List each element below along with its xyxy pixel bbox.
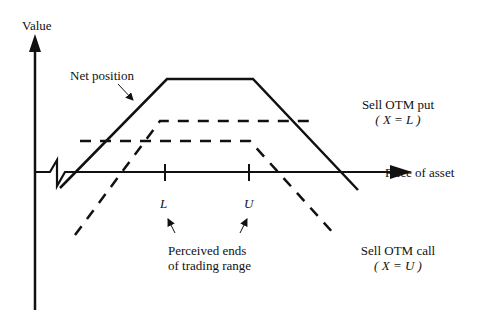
trading-range-line1: Perceived ends <box>168 243 251 258</box>
sell-call-label: Sell OTM call ( X = U ) <box>348 243 448 273</box>
tick-L-label: L <box>160 196 167 211</box>
trading-range-label: Perceived ends of trading range <box>168 243 251 273</box>
sell-put-title: Sell OTM put <box>353 97 443 112</box>
net-position-line <box>60 79 358 190</box>
payoff-diagram: Value Price of asset Net position Sell O… <box>0 0 479 327</box>
x-axis-label: Price of asset <box>385 165 454 180</box>
y-axis-arrow-icon <box>29 34 41 52</box>
sell-call-strike: ( X = U ) <box>348 258 448 273</box>
L-pointer-arrow-icon <box>168 219 175 233</box>
sell-put-label: Sell OTM put ( X = L ) <box>353 97 443 127</box>
x-axis <box>35 160 412 186</box>
sell-otm-call-line <box>80 141 335 235</box>
y-axis-label: Value <box>22 18 52 33</box>
sell-call-title: Sell OTM call <box>348 243 448 258</box>
sell-put-strike: ( X = L ) <box>353 112 443 127</box>
U-pointer-arrow-icon <box>240 219 247 233</box>
diagram-graphics <box>0 0 479 327</box>
trading-range-line2: of trading range <box>168 258 251 273</box>
net-position-label: Net position <box>70 68 134 83</box>
tick-U-label: U <box>244 196 253 211</box>
net-position-pointer-arrow-icon <box>118 84 133 100</box>
